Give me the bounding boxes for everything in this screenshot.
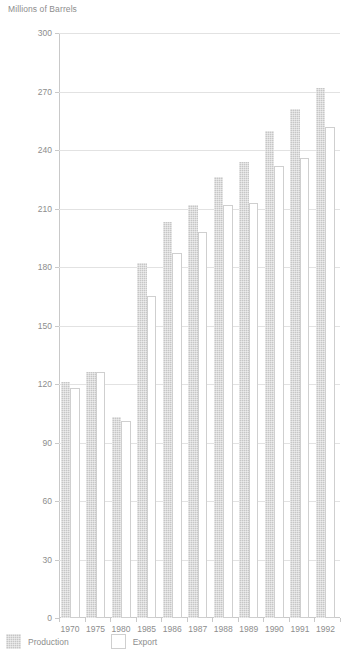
- x-axis-label: 1975: [86, 624, 105, 634]
- x-axis-label: 1980: [112, 624, 131, 634]
- x-tick-mark: [212, 618, 213, 622]
- x-tick-mark: [110, 618, 111, 622]
- x-tick-mark: [289, 618, 290, 622]
- legend-item-export: Export: [111, 634, 158, 649]
- bar-group[interactable]: [290, 33, 316, 618]
- y-axis-label: 90: [43, 438, 52, 448]
- x-tick-mark: [263, 618, 264, 622]
- x-tick-mark: [187, 618, 188, 622]
- x-axis-label: 1986: [163, 624, 182, 634]
- bar-group[interactable]: [112, 33, 138, 618]
- bar-group[interactable]: [137, 33, 163, 618]
- bar-group[interactable]: [316, 33, 342, 618]
- bar-production[interactable]: [290, 109, 300, 618]
- bar-group[interactable]: [61, 33, 87, 618]
- y-axis-title: Millions of Barrels: [8, 4, 77, 14]
- legend-label-production: Production: [28, 637, 69, 647]
- bar-production[interactable]: [239, 162, 249, 618]
- x-tick-mark: [340, 618, 341, 622]
- bar-export[interactable]: [172, 253, 182, 618]
- y-axis-label: 240: [38, 145, 52, 155]
- bar-export[interactable]: [96, 372, 106, 618]
- x-tick-mark: [85, 618, 86, 622]
- bar-export[interactable]: [300, 158, 310, 618]
- bar-production[interactable]: [265, 131, 275, 619]
- x-tick-mark: [59, 618, 60, 622]
- x-tick-mark: [314, 618, 315, 622]
- x-axis-label: 1989: [239, 624, 258, 634]
- bar-export[interactable]: [147, 296, 157, 618]
- bar-production[interactable]: [163, 222, 173, 618]
- legend-item-production: Production: [6, 634, 69, 649]
- bar-export[interactable]: [274, 166, 284, 618]
- bar-group[interactable]: [86, 33, 112, 618]
- bar-groups: [59, 33, 340, 618]
- plot-area: 3002702402101801501209060300: [59, 33, 340, 618]
- legend-label-export: Export: [133, 637, 158, 647]
- y-axis-label: 0: [47, 613, 52, 623]
- x-axis-label: 1985: [137, 624, 156, 634]
- bar-production[interactable]: [61, 382, 71, 618]
- y-axis-label: 30: [43, 555, 52, 565]
- bar-export[interactable]: [223, 205, 233, 618]
- bar-group[interactable]: [214, 33, 240, 618]
- bar-production[interactable]: [112, 417, 122, 618]
- production-swatch-icon: [6, 634, 21, 649]
- bar-group[interactable]: [265, 33, 291, 618]
- bar-production[interactable]: [316, 88, 326, 618]
- y-axis-label: 300: [38, 28, 52, 38]
- bar-group[interactable]: [163, 33, 189, 618]
- bar-group[interactable]: [188, 33, 214, 618]
- x-tick-mark: [238, 618, 239, 622]
- y-axis-label: 210: [38, 204, 52, 214]
- bar-production[interactable]: [137, 263, 147, 618]
- bar-export[interactable]: [249, 203, 259, 618]
- chart-legend: Production Export: [6, 634, 157, 649]
- x-tick-mark: [136, 618, 137, 622]
- bar-export[interactable]: [121, 421, 131, 618]
- bar-export[interactable]: [325, 127, 335, 618]
- x-axis-label: 1991: [290, 624, 309, 634]
- bar-export[interactable]: [70, 388, 80, 618]
- bar-production[interactable]: [214, 177, 224, 618]
- x-axis-label: 1990: [265, 624, 284, 634]
- bar-group[interactable]: [239, 33, 265, 618]
- bar-export[interactable]: [198, 232, 208, 618]
- x-axis-label: 1987: [188, 624, 207, 634]
- y-axis-label: 150: [38, 321, 52, 331]
- bar-production[interactable]: [86, 372, 96, 618]
- x-axis-label: 1970: [61, 624, 80, 634]
- x-axis-label: 1988: [214, 624, 233, 634]
- bar-production[interactable]: [188, 205, 198, 618]
- y-axis-label: 270: [38, 87, 52, 97]
- bar-chart: Millions of Barrels 30027024021018015012…: [0, 0, 350, 655]
- x-tick-mark: [161, 618, 162, 622]
- export-swatch-icon: [111, 634, 126, 649]
- y-axis-label: 180: [38, 262, 52, 272]
- x-axis-label: 1992: [316, 624, 335, 634]
- y-axis-label: 60: [43, 496, 52, 506]
- y-axis-label: 120: [38, 379, 52, 389]
